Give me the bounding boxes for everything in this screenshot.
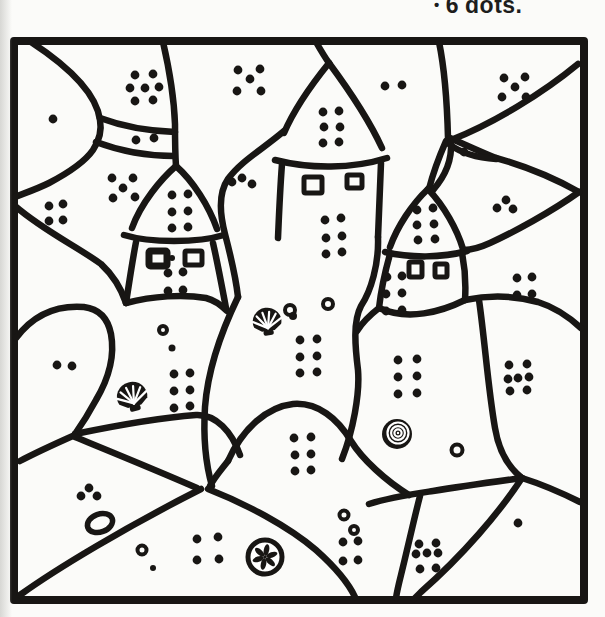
pebble	[340, 511, 349, 520]
dot-cluster-top-left-arch	[126, 70, 164, 106]
sand-dollar-shell	[248, 540, 282, 574]
dot-cluster-right-middle	[504, 360, 534, 396]
dot-cluster-right-body	[382, 272, 407, 316]
pebble	[323, 299, 333, 309]
dot-cluster-center-mound	[296, 335, 322, 378]
dot-cluster-center-roof	[319, 107, 345, 148]
pebble	[350, 526, 358, 534]
left-tower-window	[149, 251, 167, 266]
pebble	[289, 312, 297, 320]
dot-cluster-band-path	[132, 134, 159, 145]
dot-cluster-center-body	[321, 214, 347, 259]
scallop-shell	[251, 306, 283, 337]
dot-cluster-right-upper-band	[513, 273, 537, 300]
dot-cluster-left-of-left-tower	[108, 174, 140, 203]
dot-cluster-left-body	[164, 268, 188, 296]
dot-cluster-bottom-strip	[193, 533, 224, 565]
snail-shell	[382, 419, 412, 449]
center-tower-window	[304, 177, 322, 193]
dot-cluster-right-wedge	[493, 196, 518, 214]
dot-cluster-bottom-left-wedge	[77, 484, 102, 501]
dot-cluster-bottom-right-sliver	[412, 539, 443, 574]
coloring-book-page: •6dots.	[0, 0, 605, 617]
center-tower-window	[347, 175, 362, 188]
dot-cluster-left-mound	[53, 361, 77, 371]
dot-cluster-top-right	[498, 73, 531, 102]
pebble	[159, 326, 167, 334]
pebble	[169, 345, 176, 352]
caption-text: dots.	[465, 0, 522, 18]
pebble	[138, 546, 147, 555]
seashells	[114, 306, 412, 574]
dot-cluster-bottom-center	[339, 537, 363, 566]
right-tower-window	[409, 262, 422, 277]
scallop-shell	[114, 378, 151, 414]
dot-cluster-bottom-right-corner	[514, 519, 523, 528]
dot-cluster-right-of-center-roof	[381, 81, 407, 91]
coloring-puzzle-canvas	[0, 0, 605, 617]
dot-cluster-top-middle	[233, 65, 266, 96]
dot-cluster-inner-dome	[290, 433, 316, 476]
dot-cluster-right-tower-mound	[394, 355, 422, 399]
right-tower-window	[435, 264, 447, 277]
dot-cluster-wedge-dot	[460, 148, 469, 157]
pebble	[452, 445, 463, 456]
dot-cluster-corner-blob	[49, 115, 58, 124]
dot-cluster-left-roof	[168, 190, 193, 233]
dot-cluster-left-border-region	[45, 200, 68, 226]
dot-cluster-right-roof	[413, 204, 440, 245]
pebble	[85, 510, 116, 536]
dot-cluster-left-middle	[170, 369, 195, 413]
pebble	[150, 565, 156, 571]
bullet-dot-icon: •	[434, 0, 440, 13]
instruction-caption: •6dots.	[434, 0, 523, 20]
left-tower-window	[185, 251, 202, 265]
pebble	[169, 255, 175, 261]
dot-count-number: 6	[446, 0, 459, 18]
